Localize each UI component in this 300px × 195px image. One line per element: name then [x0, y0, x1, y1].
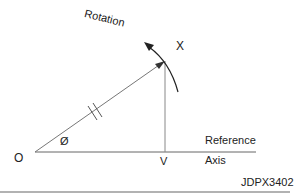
vector-arrowhead-icon — [155, 61, 165, 69]
vector-rotation-diagram: Rotation X O Ø V Reference Axis JDPX3402 — [0, 0, 300, 195]
hash-mark-1 — [88, 106, 97, 120]
origin-label: O — [14, 152, 23, 164]
diagram-canvas — [0, 0, 300, 195]
reference-label: Reference — [205, 135, 256, 146]
vector-line — [35, 63, 162, 152]
figure-id: JDPX3402 — [241, 177, 294, 188]
projection-label: V — [160, 156, 167, 167]
axis-label: Axis — [205, 155, 226, 166]
tip-label: X — [176, 40, 184, 52]
angle-label: Ø — [60, 136, 69, 147]
